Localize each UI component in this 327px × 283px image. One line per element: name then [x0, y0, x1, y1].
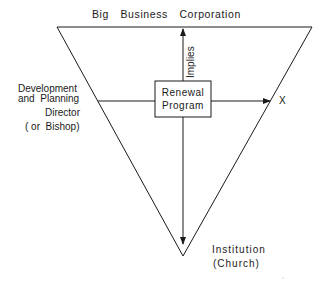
institution-label: Institution [212, 245, 266, 255]
left-label-line-4: ( or Bishop) [25, 122, 79, 132]
implies-label: Implies [186, 42, 196, 78]
x-label: X [279, 96, 286, 106]
diagram-title: Big Business Corporation [92, 9, 241, 19]
left-label-line-2: and Planning [18, 94, 79, 104]
renewal-program-label: Renewal Program [155, 81, 211, 117]
diagram-canvas [0, 0, 327, 283]
church-label: (Church) [213, 259, 260, 269]
speck [283, 278, 284, 279]
left-label-line-3: Director [45, 108, 80, 118]
box-line-2: Program [162, 99, 204, 112]
box-line-1: Renewal [162, 86, 204, 99]
